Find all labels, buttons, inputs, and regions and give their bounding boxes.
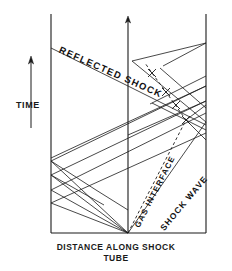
left-refl-a [51, 161, 128, 210]
wave-diagram [0, 0, 232, 271]
x-axis-label: DISTANCE ALONG SHOCK TUBE [0, 242, 232, 264]
y-axis-label: TIME [16, 100, 40, 110]
x-axis-label-line1: DISTANCE ALONG SHOCK [57, 242, 176, 252]
x-axis-label-line2: TUBE [103, 253, 128, 263]
fan-ray-2 [51, 175, 128, 233]
fan-ray-4 [51, 203, 128, 233]
upper-right-3 [160, 68, 206, 108]
figure-canvas: TIME DISTANCE ALONG SHOCK TUBE REFLECTED… [0, 0, 232, 271]
shock-wave-refl-1b [132, 43, 206, 61]
upper-right-4 [152, 103, 206, 130]
upper-right-1 [163, 43, 206, 66]
